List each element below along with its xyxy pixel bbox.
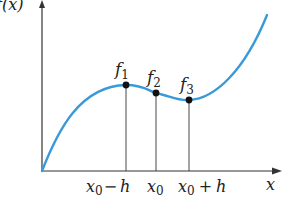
y-axis-label: f(x) [0, 0, 23, 14]
label-f1: f1 [113, 59, 129, 82]
tick-label-x0-minus-h: x0−h [86, 177, 130, 198]
x-axis-label: x [266, 175, 275, 194]
label-f2: f2 [145, 67, 161, 90]
point-f3 [186, 97, 193, 104]
tick-label-x0-plus-h: x0+h [178, 177, 226, 198]
point-f1 [123, 82, 130, 89]
x-axis-arrow-icon [272, 168, 282, 175]
function-diagram: f1 f2 f3 f(x) x0−h x0 x0+h x [0, 0, 300, 209]
tick-label-x0: x0 [147, 177, 164, 198]
label-f3: f3 [178, 74, 194, 97]
y-axis-arrow-icon [39, 0, 45, 8]
point-f2 [153, 90, 160, 97]
